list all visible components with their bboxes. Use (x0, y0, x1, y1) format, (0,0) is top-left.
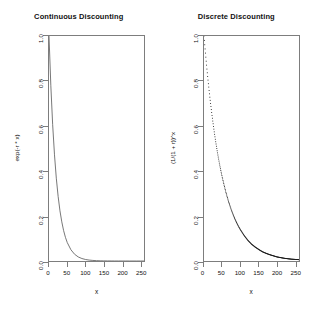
x-tick-label: 50 (63, 269, 70, 276)
x-tick-label: 100 (80, 269, 90, 276)
panel-title-discrete: Discrete Discounting (158, 12, 316, 21)
x-axis-title-discrete: x (203, 288, 300, 295)
y-tick-label: 0.4 (192, 170, 199, 179)
x-tick-label: 0 (46, 269, 49, 276)
figure-canvas: Continuous Discounting 0.0 0.2 0.4 0.6 0… (0, 0, 315, 319)
y-tick-label: 0.2 (192, 216, 199, 225)
discrete-points-svg (204, 36, 299, 261)
y-tick-label: 0.4 (38, 170, 45, 179)
panel-discrete-discounting: Discrete Discounting 0.0 0.2 0.4 0.6 0.8… (158, 0, 316, 319)
plot-area-continuous (48, 35, 145, 262)
continuous-curve-svg (49, 36, 144, 261)
panel-continuous-discounting: Continuous Discounting 0.0 0.2 0.4 0.6 0… (0, 0, 158, 319)
x-tick-label: 250 (291, 269, 301, 276)
y-axis-discrete: 0.0 0.2 0.4 0.6 0.8 1.0 (197, 35, 203, 262)
x-tick-label: 0 (201, 269, 204, 276)
x-tick-label: 100 (235, 269, 245, 276)
x-axis-discrete: 0 50 100 150 200 250 (203, 262, 300, 268)
plot-area-discrete (203, 35, 300, 262)
y-tick-label: 1.0 (192, 34, 199, 43)
x-tick-label: 200 (117, 269, 127, 276)
panel-title-continuous: Continuous Discounting (0, 12, 158, 21)
x-tick-label: 50 (218, 269, 225, 276)
x-axis-continuous: 0 50 100 150 200 250 (48, 262, 145, 268)
y-tick-label: 0.0 (38, 261, 45, 270)
y-tick-label: 0.6 (38, 125, 45, 134)
y-axis-title-continuous: exp(-r * x) (13, 134, 20, 161)
x-axis-title-continuous: x (48, 288, 145, 295)
x-tick-label: 150 (253, 269, 263, 276)
y-axis-title-discrete: (1/(1 + r))^x (168, 132, 175, 164)
x-tick-label: 250 (136, 269, 146, 276)
y-axis-continuous: 0.0 0.2 0.4 0.6 0.8 1.0 (42, 35, 48, 262)
y-tick-label: 0.8 (192, 79, 199, 88)
y-tick-label: 0.0 (192, 261, 199, 270)
x-tick-label: 150 (99, 269, 109, 276)
x-tick-label: 200 (272, 269, 282, 276)
y-tick-label: 0.8 (38, 79, 45, 88)
y-tick-label: 0.2 (38, 216, 45, 225)
y-tick-label: 0.6 (192, 125, 199, 134)
y-tick-label: 1.0 (38, 34, 45, 43)
